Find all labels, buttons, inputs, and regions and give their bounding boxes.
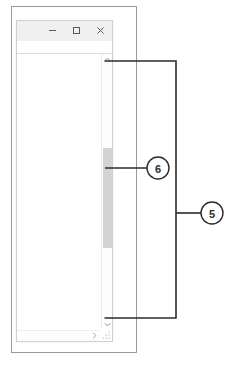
resize-grip-icon[interactable] — [100, 329, 112, 341]
scroll-down-button[interactable] — [102, 319, 112, 329]
maximize-button[interactable] — [64, 21, 88, 41]
figure-canvas: 6 5 — [0, 0, 234, 368]
callout-6: 6 — [147, 157, 169, 179]
minimize-button[interactable] — [40, 21, 64, 41]
vertical-scrollbar-track[interactable] — [101, 54, 112, 329]
application-window — [16, 20, 113, 342]
callout-5: 5 — [201, 202, 223, 224]
window-titlebar — [17, 21, 112, 41]
callout-5-label: 5 — [209, 208, 215, 220]
horizontal-scrollbar-track[interactable] — [17, 330, 100, 341]
scroll-up-button[interactable] — [102, 54, 112, 64]
close-button[interactable] — [88, 21, 112, 41]
window-toolbar-strip — [17, 41, 112, 54]
scroll-right-button[interactable] — [90, 331, 99, 340]
window-content-area — [17, 54, 112, 341]
callout-6-label: 6 — [155, 163, 161, 175]
scrollbar-thumb[interactable] — [103, 148, 112, 248]
